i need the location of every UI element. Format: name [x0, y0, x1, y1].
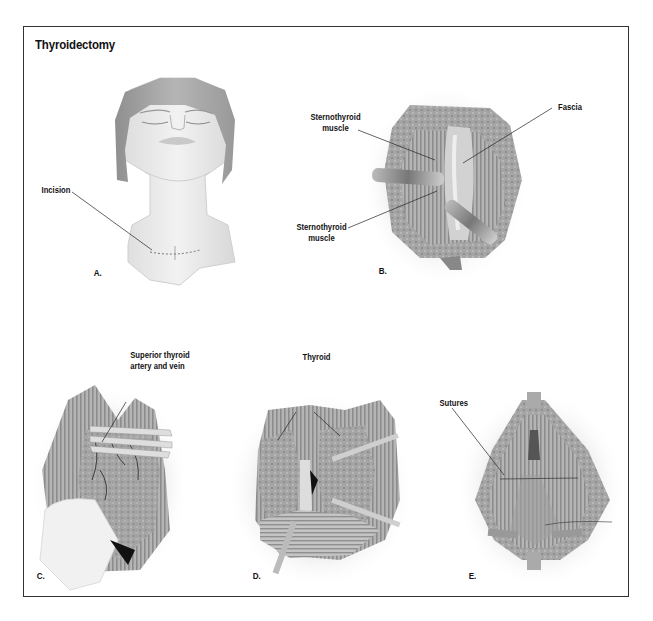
panel-d-thyroid-illustration [225, 390, 415, 590]
label-fascia: Fascia [558, 102, 582, 113]
label-sternothyroid-lower: Sternothyroid muscle [296, 222, 346, 244]
label-incision: Incision [42, 185, 71, 196]
label-line-1: Sternothyroid [310, 112, 360, 123]
label-line-1: Sternothyroid [296, 222, 346, 233]
panel-c-vessel-illustration [30, 385, 190, 590]
label-line-2: muscle [310, 123, 360, 134]
panel-letter-c: C. [37, 570, 45, 581]
panel-letter-a: A. [94, 267, 102, 278]
label-sternothyroid-upper: Sternothyroid muscle [310, 112, 360, 134]
panel-e-closure-illustration [452, 390, 625, 590]
label-line-2: artery and vein [130, 361, 190, 372]
illustration-canvas [0, 0, 653, 621]
label-sutures: Sutures [440, 398, 468, 409]
label-thyroid: Thyroid [302, 352, 330, 363]
panel-letter-d: D. [253, 570, 261, 581]
panel-a-head-illustration [115, 78, 235, 285]
panel-b-muscle-illustration [348, 83, 552, 287]
panel-letter-b: B. [379, 265, 387, 276]
panel-letter-e: E. [469, 570, 477, 581]
label-line-1: Superior thyroid [130, 350, 190, 361]
label-line-2: muscle [296, 233, 346, 244]
label-superior-thyroid-vessels: Superior thyroid artery and vein [130, 350, 190, 372]
